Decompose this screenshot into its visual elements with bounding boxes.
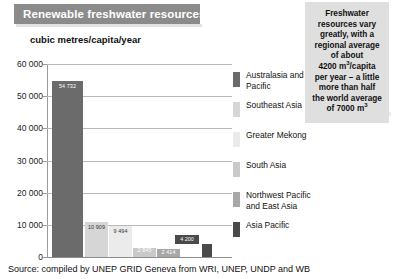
- callout-line-2: resources vary: [318, 20, 376, 29]
- callout-line-7: per year – a little: [315, 73, 380, 82]
- legend-swatch: [233, 222, 240, 237]
- y-axis-tick-label: 50 000: [17, 91, 43, 101]
- bar-value-label: 2 414: [162, 249, 176, 255]
- legend-swatch: [233, 132, 240, 147]
- y-axis-tick-label: 60 000: [17, 59, 43, 69]
- callout-line-9: the world average: [312, 94, 382, 103]
- legend-item[interactable]: Northwest Pacific and East Asia: [233, 192, 319, 222]
- legend-item[interactable]: Asia Pacific: [233, 222, 319, 252]
- callout-line-6-post: /capita: [350, 62, 376, 71]
- bar[interactable]: [202, 244, 212, 258]
- bar-value-label: 9 494: [114, 228, 128, 234]
- callout-line-4: regional average: [314, 41, 379, 50]
- y-axis-tick-label: 40 000: [17, 123, 43, 133]
- chart-page: Renewable freshwater resources cubic met…: [0, 0, 393, 279]
- legend-label: Northwest Pacific and East Asia: [246, 190, 322, 211]
- bar-value-label: 54 732: [59, 83, 76, 89]
- y-axis-tick-label: 10 000: [17, 220, 43, 230]
- callout-line-3: greatly, with a: [320, 30, 374, 39]
- y-axis-title: cubic metres/capita/year: [30, 34, 141, 45]
- bar-value-label: 2 845: [138, 247, 152, 253]
- bar-series: 54 73210 9099 4942 8452 4144 200: [47, 64, 232, 257]
- callout-line-1: Freshwater: [325, 9, 369, 18]
- legend-label: South Asia: [246, 160, 322, 171]
- callout-line-10-sup: 3: [364, 103, 367, 109]
- legend-swatch: [233, 162, 240, 177]
- legend-swatch: [233, 192, 240, 207]
- bar-value-label: 10 909: [88, 224, 105, 230]
- source-note: Source: compiled by UNEP GRID Geneva fro…: [8, 264, 310, 274]
- callout-line-8: more than half: [319, 83, 375, 92]
- plot-area: 54 73210 9099 4942 8452 4144 200: [47, 64, 232, 257]
- bar-value-label: 4 200: [175, 235, 199, 244]
- bar[interactable]: 2 845: [133, 248, 156, 257]
- y-axis-tick-label: 20 000: [17, 188, 43, 198]
- callout-line-6-pre: 4200 m: [318, 62, 346, 71]
- bar[interactable]: 54 732: [52, 81, 83, 257]
- chart-title-bar: Renewable freshwater resources: [14, 4, 200, 24]
- title-bar-shadow: [16, 24, 202, 27]
- y-axis-tick-label: 30 000: [17, 156, 43, 166]
- chart-title: Renewable freshwater resources: [14, 8, 206, 20]
- bar[interactable]: 2 414: [157, 249, 180, 257]
- bar[interactable]: 9 494: [109, 226, 132, 257]
- legend-item[interactable]: Greater Mekong: [233, 132, 319, 162]
- legend-swatch: [233, 72, 240, 87]
- legend-label: Asia Pacific: [246, 220, 322, 231]
- y-axis-tick-labels: 60 00050 00040 00030 00020 00010 0000: [0, 64, 43, 257]
- legend-item[interactable]: South Asia: [233, 162, 319, 192]
- callout-line-10-pre: of 7000 m: [326, 104, 364, 113]
- legend-label: Greater Mekong: [246, 130, 322, 141]
- bar[interactable]: 10 909: [85, 222, 108, 257]
- callout-line-5: of about: [331, 51, 363, 60]
- callout-box: Freshwater resources vary greatly, with …: [305, 2, 389, 123]
- x-axis-baseline: [47, 257, 232, 258]
- legend-swatch: [233, 102, 240, 117]
